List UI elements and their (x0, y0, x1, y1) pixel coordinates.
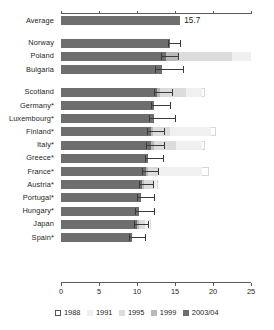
error-bar-cap-high (180, 40, 181, 47)
bar-segment-2003 (61, 141, 151, 150)
horizontal-bar-chart: AverageNorwayPolandBulgariaScotlandGerma… (0, 0, 274, 330)
x-tick-label: 20 (209, 288, 217, 296)
error-bar-cap-high (154, 194, 155, 201)
category-label: Average (26, 17, 54, 25)
category-label: Greece* (26, 154, 54, 162)
error-bar-cap-high (163, 155, 164, 162)
x-tick (137, 283, 138, 286)
error-bar-cap-high (170, 102, 171, 109)
legend-label: 2003/04 (192, 309, 219, 317)
bar-row (61, 88, 251, 97)
x-tick-label: 15 (171, 288, 179, 296)
error-bar-line (135, 211, 153, 212)
error-bar-cap-low (146, 142, 147, 149)
error-bar-line (161, 56, 178, 57)
chart-legend: 19881991199519992003/04 (0, 309, 274, 317)
x-tick (99, 283, 100, 286)
error-bar-cap-low (151, 102, 152, 109)
x-tick-top (61, 11, 62, 14)
error-bar-cap-low (161, 53, 162, 60)
x-tick (175, 283, 176, 286)
category-label: Norway (28, 39, 54, 47)
x-tick-label: 5 (97, 288, 101, 296)
plot-area (61, 14, 251, 282)
bar-value-label: 15.7 (184, 16, 200, 25)
error-bar-cap-high (154, 208, 155, 215)
bar-row (61, 101, 251, 110)
legend-item: 1995 (119, 309, 144, 317)
error-bar-cap-low (142, 168, 143, 175)
error-bar-cap-low (134, 221, 135, 228)
category-label: Japan (33, 220, 54, 228)
x-tick-top (175, 11, 176, 14)
legend-label: 1995 (128, 309, 144, 317)
bar-row (61, 180, 251, 189)
error-bar-cap-high (172, 89, 173, 96)
error-bar-line (139, 184, 153, 185)
error-bar-line (134, 224, 148, 225)
error-bar-cap-high (175, 115, 176, 122)
error-bar-line (146, 145, 163, 146)
bar-row (61, 39, 251, 48)
error-bar-line (155, 69, 182, 70)
error-bar-cap-low (155, 66, 156, 73)
category-label: Luxembourg* (9, 115, 54, 123)
error-bar-line (147, 131, 164, 132)
bar-segment-2003 (61, 220, 137, 229)
error-bar-line (142, 171, 158, 172)
bar-segment-2003 (61, 16, 180, 25)
error-bar-cap-low (145, 155, 146, 162)
legend-swatch-1999 (151, 310, 157, 316)
error-bar-line (154, 92, 172, 93)
bar-segment-2003 (61, 207, 139, 216)
error-bar-cap-high (178, 53, 179, 60)
x-tick (213, 283, 214, 286)
bar-row (61, 220, 251, 229)
category-label: Italy* (37, 141, 54, 149)
category-axis-labels: AverageNorwayPolandBulgariaScotlandGerma… (0, 14, 58, 282)
bar-segment-2003 (61, 88, 157, 97)
legend-item: 2003/04 (183, 309, 218, 317)
legend-item: 1988 (55, 309, 80, 317)
legend-item: 1991 (87, 309, 112, 317)
error-bar-cap-low (129, 234, 130, 241)
error-bar-cap-high (148, 221, 149, 228)
bar-row (61, 154, 251, 163)
bar-segment-2003 (61, 65, 162, 74)
error-bar-cap-high (153, 181, 154, 188)
bar-row (61, 141, 251, 150)
category-label: Hungary* (22, 207, 54, 215)
axis-line-bottom (61, 282, 251, 283)
bar-row (61, 233, 251, 242)
bar-segment-2003 (61, 233, 132, 242)
category-label: Poland (30, 52, 54, 60)
error-bar-cap-low (147, 128, 148, 135)
bar-segment-2003 (61, 180, 142, 189)
error-bar-line (129, 237, 145, 238)
bar-segment-2003 (61, 114, 154, 123)
error-bar-cap-low (154, 89, 155, 96)
category-label: Bulgaria (26, 66, 54, 74)
bar-row (61, 207, 251, 216)
bar-segment-2003 (61, 127, 151, 136)
bar-row (61, 16, 251, 25)
x-tick-label: 25 (247, 288, 255, 296)
error-bar-line (137, 197, 154, 198)
error-bar-line (168, 43, 179, 44)
legend-item: 1999 (151, 309, 176, 317)
legend-swatch-1995 (119, 310, 125, 316)
bar-segment-2003 (61, 101, 154, 110)
category-label: France* (27, 168, 54, 176)
legend-swatch-1991 (87, 310, 93, 316)
x-tick (61, 283, 62, 286)
x-tick-label: 10 (133, 288, 141, 296)
category-label: Spain* (32, 234, 54, 242)
bar-row (61, 127, 251, 136)
x-tick-top (99, 11, 100, 14)
legend-label: 1991 (96, 309, 112, 317)
bar-row (61, 52, 251, 61)
error-bar-cap-high (158, 168, 159, 175)
bar-segment-2003 (61, 52, 166, 61)
category-label: Austria* (27, 181, 54, 189)
error-bar-cap-high (164, 128, 165, 135)
